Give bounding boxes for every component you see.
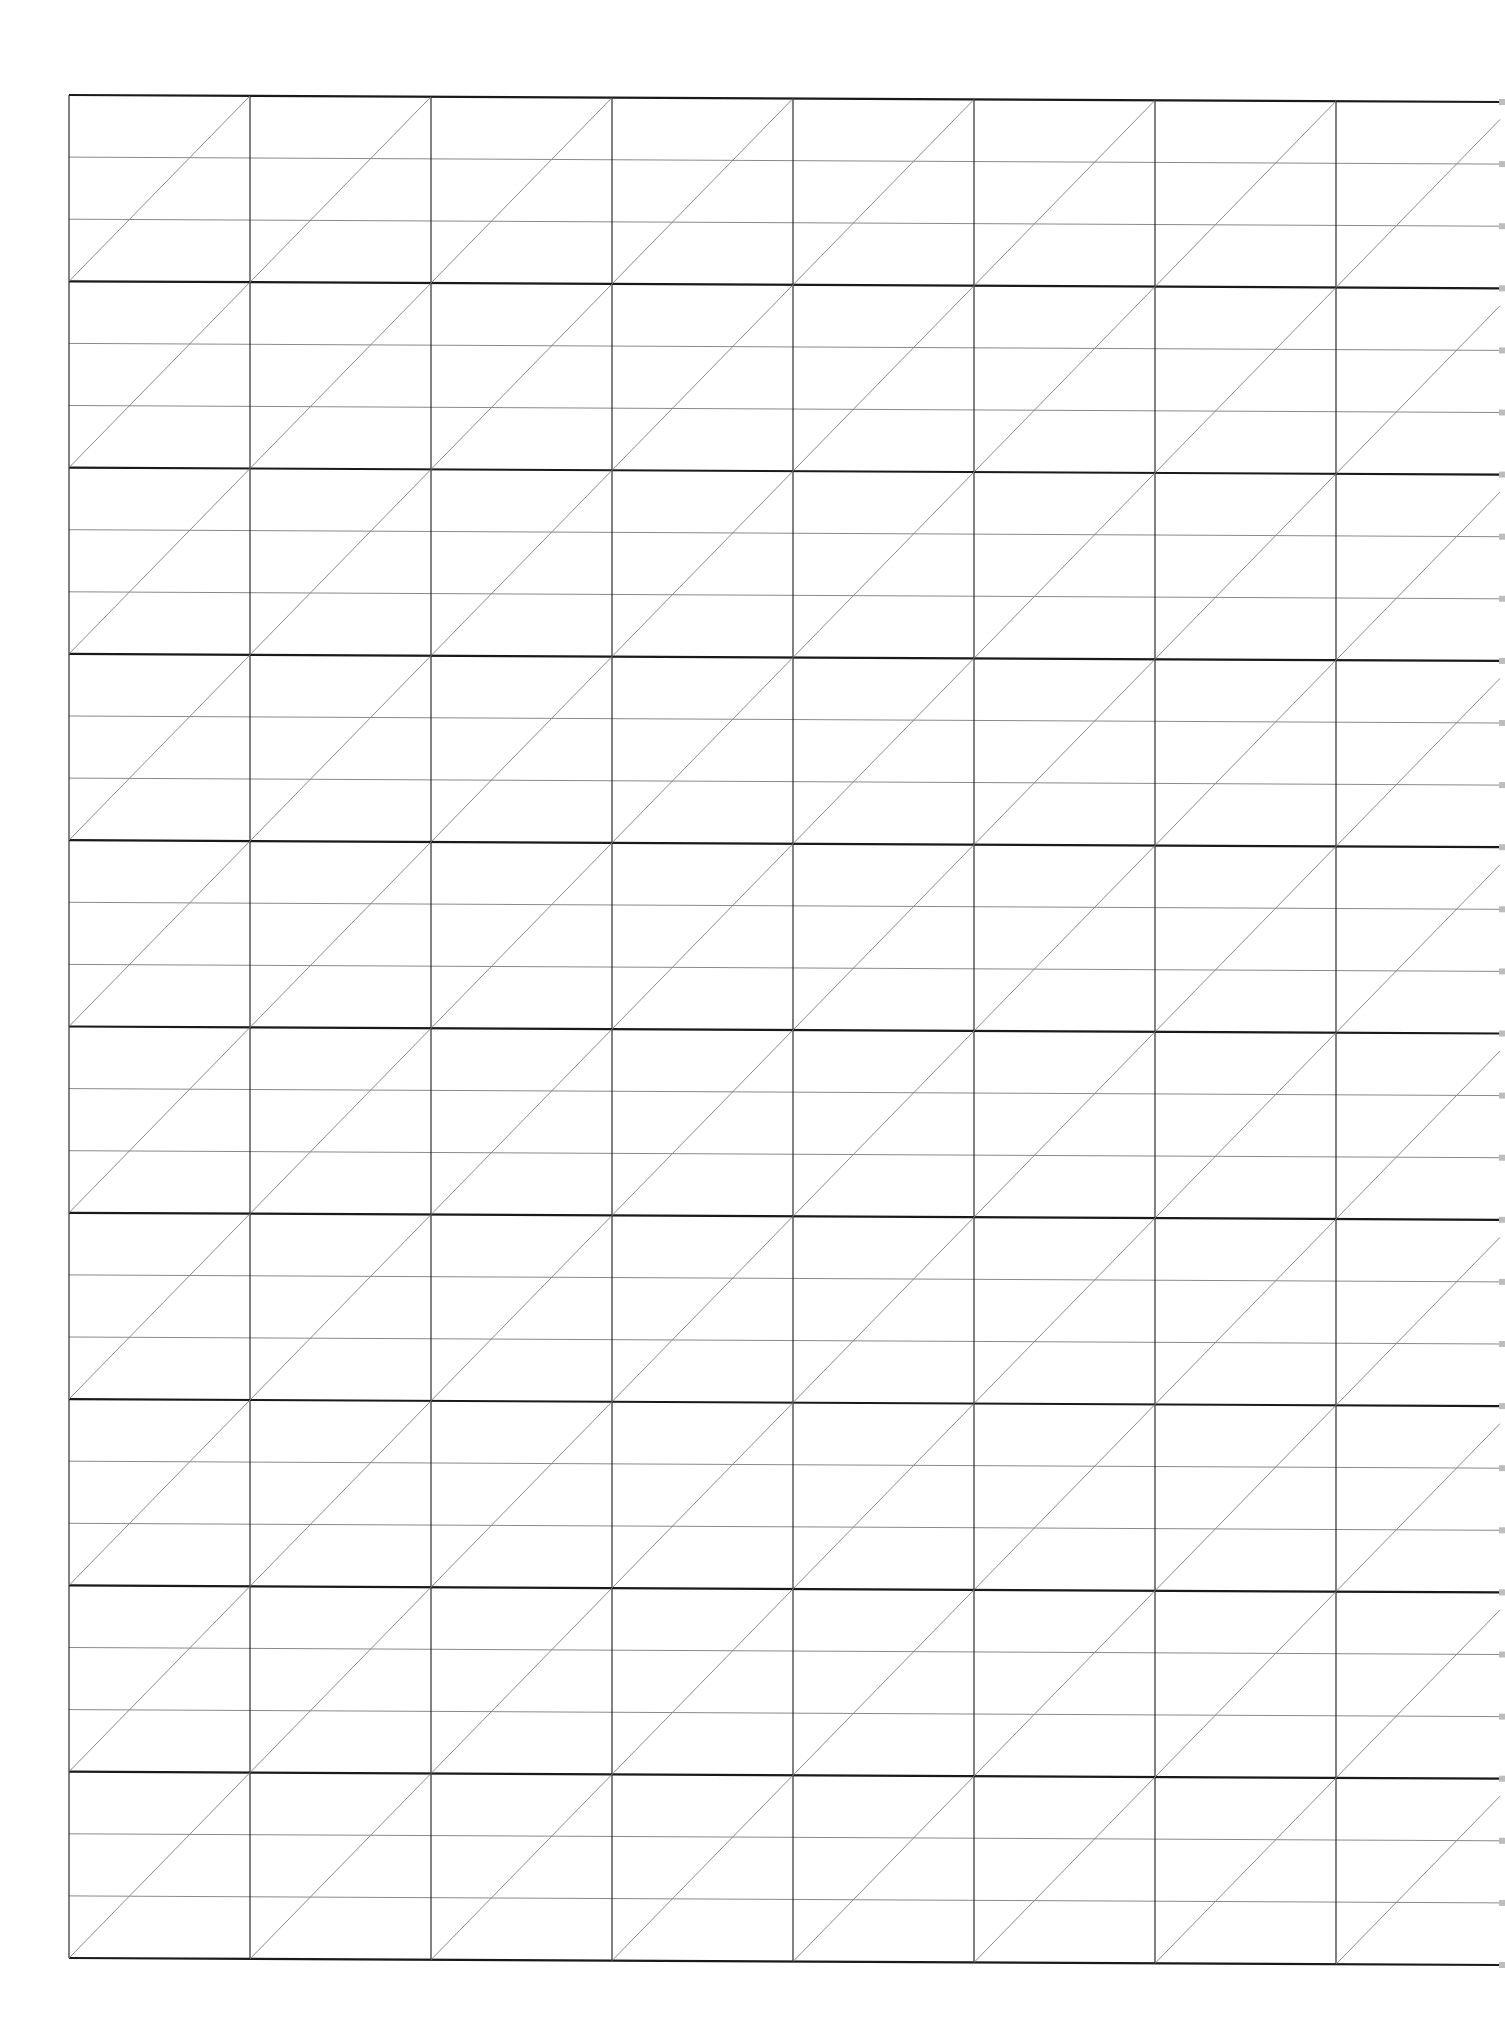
baseline-major [69,281,1500,288]
slant-guide [69,282,250,467]
slant-guide [974,1032,1155,1217]
guide-line-minor [69,1834,1500,1841]
slant-guide [974,473,1155,658]
slant-guide [1155,660,1336,845]
slant-guide [250,1028,431,1213]
slant-guide [1336,678,1500,846]
edge-mark [1499,1465,1505,1471]
slant-guide [612,657,793,842]
slant-guide [612,99,793,284]
slant-guide [612,1589,793,1774]
baseline-major [69,1958,1500,1965]
baseline-major [69,840,1500,847]
slant-guide [974,1404,1155,1589]
slant-guide [431,1215,612,1400]
slant-guide [1155,1405,1336,1590]
slant-guide [974,100,1155,285]
slant-guide [69,96,250,281]
edge-mark [1499,1155,1505,1161]
slant-guide [431,1588,612,1773]
slant-guide [1155,288,1336,473]
edge-mark [1499,844,1505,850]
slant-guide [431,1402,612,1587]
slant-guide [1155,1033,1336,1218]
baseline-major [69,1027,1500,1034]
edge-mark [1499,1217,1505,1223]
slant-guide [1336,1796,1500,1964]
slant-guide [1155,846,1336,1031]
edge-mark [1499,161,1505,167]
slant-guide [250,97,431,282]
edge-mark [1499,782,1505,788]
slant-guide [1336,1424,1500,1592]
guide-sheet [0,0,1505,2025]
slant-guide [974,659,1155,844]
baseline-major [69,95,1500,102]
slant-guide [793,1590,974,1775]
slant-guide [69,1773,250,1958]
guide-line-minor [69,219,1500,226]
edge-mark [1499,658,1505,664]
slant-guide [431,657,612,842]
slant-guide [69,468,250,653]
edge-mark [1499,968,1505,974]
slant-guide [1155,1219,1336,1404]
slant-guide [250,469,431,654]
edge-mark [1499,347,1505,353]
edge-mark [1499,1403,1505,1409]
slant-guide [69,841,250,1026]
slant-guide [69,1214,250,1399]
guide-line-minor [69,778,1500,785]
slant-guide [250,842,431,1027]
slant-guide [612,1403,793,1588]
baseline-major [69,1772,1500,1779]
slant-guide [612,1775,793,1960]
edge-mark [1499,410,1505,416]
slant-guide [250,1587,431,1772]
slant-guide [612,471,793,656]
slant-guide [793,1776,974,1961]
edge-mark [1499,1341,1505,1347]
guide-line-minor [69,1089,1500,1096]
slant-guide [612,1216,793,1401]
slant-guide [69,1400,250,1585]
slant-guide [974,287,1155,472]
baseline-major [69,654,1500,661]
edge-mark [1499,1900,1505,1906]
guide-line-minor [69,1523,1500,1530]
edge-mark [1499,1714,1505,1720]
edge-mark [1499,1093,1505,1099]
slant-guide [612,1030,793,1215]
edge-mark [1499,1962,1505,1968]
guide-line-minor [69,157,1500,164]
slant-guide [1336,865,1500,1033]
slant-guide [974,1777,1155,1962]
guide-line-minor [69,902,1500,909]
edge-mark [1499,1776,1505,1782]
slant-guide [793,99,974,284]
guide-line-minor [69,592,1500,599]
guide-line-minor [69,964,1500,971]
baseline-major [69,468,1500,475]
slant-guide [250,1215,431,1400]
slant-guide [974,846,1155,1031]
edge-mark [1499,99,1505,105]
guide-line-minor [69,1337,1500,1344]
slant-guide [612,844,793,1029]
edge-mark [1499,720,1505,726]
slant-guide [431,284,612,469]
slant-guide [431,470,612,655]
slant-guide [1336,492,1500,660]
guide-line-minor [69,1648,1500,1655]
slant-guide [250,1401,431,1586]
slant-guide [1336,306,1500,474]
slant-guide [1155,101,1336,286]
slant-guide [793,1217,974,1402]
slant-guide [1155,474,1336,659]
slant-guide [1155,1778,1336,1963]
slant-guide [431,98,612,283]
slant-guide [69,655,250,840]
edge-mark [1499,906,1505,912]
slant-guide [1336,120,1500,288]
slant-guide [69,1027,250,1212]
